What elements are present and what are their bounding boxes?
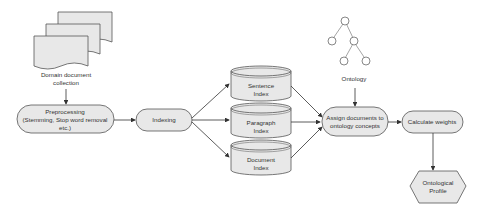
svg-text:Indexing: Indexing <box>152 116 176 123</box>
calculate-weights-node: Calculate weights <box>402 111 463 133</box>
domain-docs-label-2: collection <box>53 79 79 86</box>
paragraph-index-label-1: Paragraph <box>247 119 276 126</box>
document-index-label-1: Document <box>247 156 275 163</box>
svg-text:Assign documents to: Assign documents to <box>326 114 384 121</box>
ontological-profile-node: Ontological Profile <box>410 171 466 203</box>
svg-text:Paragraph: Paragraph <box>247 119 276 126</box>
svg-text:Ontological: Ontological <box>423 179 454 186</box>
svg-text:Index: Index <box>253 90 269 97</box>
profile-label-1: Ontological <box>423 179 454 186</box>
calc-weights-label: Calculate weights <box>408 118 457 125</box>
svg-text:ontology concepts: ontology concepts <box>330 122 380 129</box>
preprocessing-node: Preprocessing (Stemming, Stop word remov… <box>17 105 114 133</box>
svg-text:etc.): etc.) <box>59 124 71 131</box>
document-index-label-2: Index <box>253 164 269 171</box>
sentence-index-node: Sentence Index <box>231 66 291 101</box>
paragraph-index-node: Paragraph Index <box>231 103 291 138</box>
svg-text:Document: Document <box>247 156 275 163</box>
document-index-node: Document Index <box>231 140 291 175</box>
preprocessing-label-3: etc.) <box>59 124 71 131</box>
svg-text:Index: Index <box>253 164 269 171</box>
sentence-index-label-1: Sentence <box>248 82 275 89</box>
svg-text:Calculate weights: Calculate weights <box>408 118 457 125</box>
svg-text:Domain document: Domain document <box>41 71 91 78</box>
assign-label-1: Assign documents to <box>326 114 384 121</box>
svg-text:Ontology: Ontology <box>342 75 368 82</box>
ontology-node: Ontology <box>328 17 370 82</box>
svg-text:(Stemming, Stop word removal: (Stemming, Stop word removal <box>23 116 108 123</box>
indexing-node: Indexing <box>136 109 192 131</box>
svg-text:Profile: Profile <box>429 187 447 194</box>
domain-document-collection-node: Domain document collection <box>34 12 112 86</box>
ontology-label: Ontology <box>342 75 368 82</box>
sentence-index-label-2: Index <box>253 90 269 97</box>
domain-docs-label-1: Domain document <box>41 71 91 78</box>
tree-root-icon <box>341 17 349 25</box>
svg-text:Index: Index <box>253 127 269 134</box>
preprocessing-label-1: Preprocessing <box>45 108 85 115</box>
indexing-label: Indexing <box>152 116 176 123</box>
svg-text:Sentence: Sentence <box>248 82 275 89</box>
flowchart-diagram: Domain document collection Preprocessing… <box>0 0 484 221</box>
assign-label-2: ontology concepts <box>330 122 380 129</box>
paragraph-index-label-2: Index <box>253 127 269 134</box>
assign-documents-node: Assign documents to ontology concepts <box>322 107 388 136</box>
profile-label-2: Profile <box>429 187 447 194</box>
svg-text:Preprocessing: Preprocessing <box>45 108 85 115</box>
svg-text:collection: collection <box>53 79 79 86</box>
preprocessing-label-2: (Stemming, Stop word removal <box>23 116 108 123</box>
